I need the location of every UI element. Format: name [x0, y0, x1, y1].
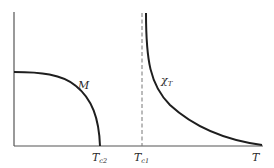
- tc2-label: Tc2: [92, 151, 107, 165]
- tc2-label-sub: c2: [99, 157, 107, 165]
- magnetization-label: M: [77, 79, 90, 92]
- tc1-label: Tc1: [134, 151, 149, 165]
- phase-diagram: M χT Tc2 Tc1 T: [0, 0, 274, 168]
- tc1-label-sub: c1: [141, 157, 149, 165]
- susceptibility-label-sub: T: [168, 80, 174, 88]
- x-axis-label: T: [252, 151, 261, 164]
- susceptibility-label: χT: [160, 74, 174, 88]
